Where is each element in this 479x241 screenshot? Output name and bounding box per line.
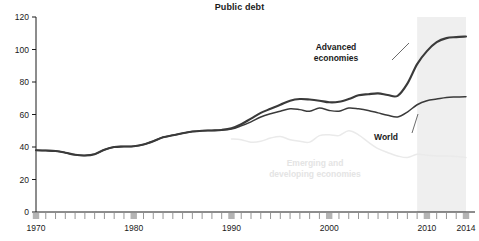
x-axis-tick-label: 2000 [320, 223, 339, 233]
y-axis-tick-label: 20 [20, 175, 30, 185]
y-axis-tick-label: 40 [20, 142, 30, 152]
y-axis-tick-label: 60 [20, 110, 30, 120]
advanced-economies-label: Advanced [316, 42, 357, 52]
x-axis-major-tick [131, 213, 137, 219]
x-axis-tick-label: 1990 [222, 223, 241, 233]
y-axis-tick-labels: 020406080100120 [15, 12, 29, 217]
x-axis-tick-label: 2014 [457, 223, 476, 233]
x-axis-major-tick [424, 213, 430, 219]
annotation-leader-line [392, 43, 409, 60]
x-axis-tick-labels: 197019801990200020102014 [27, 223, 476, 233]
emerging-economies-label: Emerging and [287, 158, 344, 168]
x-axis-major-tick [463, 213, 469, 219]
y-axis-tick-label: 120 [15, 12, 29, 22]
x-axis-tick-label: 1980 [124, 223, 143, 233]
annotation-leader-line [412, 114, 418, 133]
series-line [36, 97, 466, 156]
emerging-economies-label: developing economies [269, 169, 361, 179]
projection-shading [417, 17, 466, 212]
x-axis-major-tick [228, 213, 234, 219]
advanced-economies-label: economies [314, 53, 359, 63]
y-axis-tick-label: 0 [24, 207, 29, 217]
y-axis-tick-label: 100 [15, 45, 29, 55]
projection-band [417, 17, 466, 212]
x-axis-tick-label: 1970 [27, 223, 46, 233]
x-axis-major-tick [326, 213, 332, 219]
chart-container: Public debt AdvancedeconomiesWorldEmergi… [0, 0, 479, 241]
series-line [36, 37, 466, 156]
chart-series [36, 37, 466, 158]
x-axis-tick-label: 2010 [417, 223, 436, 233]
world-label: World [374, 132, 398, 142]
y-axis-tick-label: 80 [20, 77, 30, 87]
public-debt-line-chart: AdvancedeconomiesWorldEmerging anddevelo… [0, 0, 479, 241]
x-axis-major-tick [33, 213, 39, 219]
